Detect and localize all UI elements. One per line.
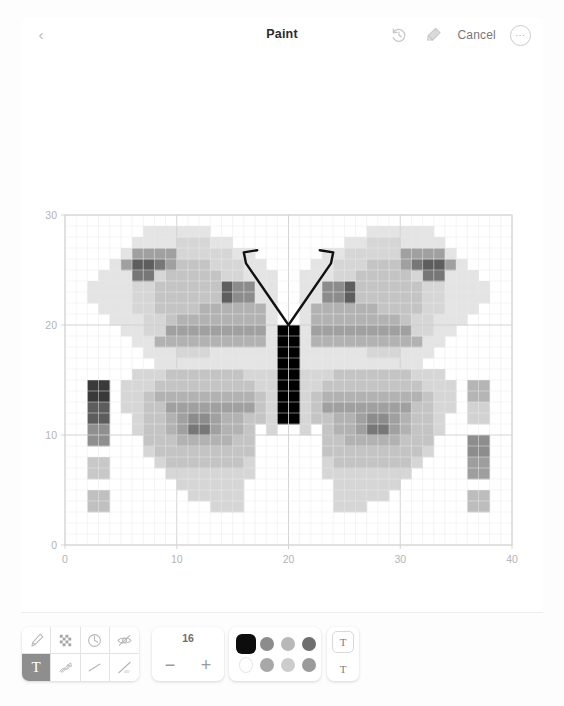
eraser-icon[interactable] (423, 25, 443, 45)
x-tick-label: 10 (171, 553, 183, 565)
color-swatch-1[interactable] (260, 637, 274, 651)
y-tick-label: 0 (51, 539, 57, 551)
bottom-toolbar: T45° 16 − + T T (21, 612, 543, 691)
cancel-button[interactable]: Cancel (457, 28, 496, 42)
angle45-icon: 45° (115, 658, 134, 677)
color-swatch-0[interactable] (236, 634, 256, 654)
top-actions: Cancel ⋯ (389, 24, 531, 46)
scribble-tool[interactable] (51, 654, 80, 681)
undo-history-icon[interactable] (389, 25, 409, 45)
text-tool[interactable]: T (22, 654, 51, 681)
eye-slash-icon (115, 631, 134, 650)
pixel-grid-plot[interactable]: 0102030400102030 (21, 52, 543, 612)
x-tick-label: 20 (283, 553, 295, 565)
color-swatch-cell[interactable] (279, 656, 297, 674)
svg-text:45°: 45° (124, 669, 131, 674)
butterfly-heatmap[interactable]: 0102030400102030 (21, 52, 543, 612)
stepper-controls: − + (152, 651, 224, 679)
color-swatch-cell[interactable] (258, 656, 276, 674)
tool-palette: T45° (22, 627, 139, 681)
x-tick-label: 40 (506, 553, 518, 565)
decrease-size-button[interactable]: − (157, 656, 183, 674)
brush-icon (27, 631, 46, 650)
color-swatch-7[interactable] (302, 658, 316, 672)
text-size-boxed[interactable]: T (332, 631, 354, 653)
y-tick-label: 20 (45, 319, 57, 331)
grid-lines (65, 215, 512, 545)
visibility-tool[interactable] (110, 627, 139, 654)
text-tool-label: T (32, 659, 41, 676)
text-size-plain-label: T (340, 663, 347, 675)
text-size-panel: T T (327, 627, 359, 681)
brush-size-stepper: 16 − + (152, 627, 224, 681)
color-swatch-2[interactable] (281, 637, 295, 651)
line-tool[interactable] (81, 654, 110, 681)
increase-size-button[interactable]: + (193, 656, 219, 674)
color-swatch-cell[interactable] (300, 656, 318, 674)
paint-app: ‹ Paint Cancel ⋯ (0, 0, 564, 706)
brush-size-value: 16 (152, 632, 224, 644)
color-swatch-cell[interactable] (237, 635, 255, 653)
line-icon (85, 658, 104, 677)
more-dots-icon: ⋯ (515, 33, 526, 38)
text-size-boxed-label: T (340, 636, 347, 648)
color-swatch-cell[interactable] (279, 635, 297, 653)
color-swatch-cell[interactable] (258, 635, 276, 653)
color-swatch-6[interactable] (281, 658, 295, 672)
y-tick-label: 10 (45, 429, 57, 441)
color-swatch-cell[interactable] (237, 656, 255, 674)
scribble-icon (56, 658, 75, 677)
brush-tool[interactable] (22, 627, 51, 654)
y-tick-label: 30 (45, 209, 57, 221)
more-options-button[interactable]: ⋯ (510, 25, 531, 46)
checker-icon (56, 631, 75, 650)
color-palette (229, 627, 321, 681)
angle-tool[interactable]: 45° (110, 654, 139, 681)
drawing-canvas[interactable]: 0102030400102030 (21, 52, 543, 612)
color-swatch-4[interactable] (239, 657, 253, 673)
clock-tool[interactable] (81, 627, 110, 654)
color-swatch-3[interactable] (302, 637, 316, 651)
text-size-plain[interactable]: T (333, 660, 353, 678)
clock-icon (85, 631, 104, 650)
color-swatch-cell[interactable] (300, 635, 318, 653)
top-toolbar: ‹ Paint Cancel ⋯ (21, 18, 543, 53)
color-swatch-5[interactable] (260, 658, 274, 672)
x-tick-label: 30 (394, 553, 406, 565)
x-tick-label: 0 (62, 553, 68, 565)
checker-fill-tool[interactable] (51, 627, 80, 654)
